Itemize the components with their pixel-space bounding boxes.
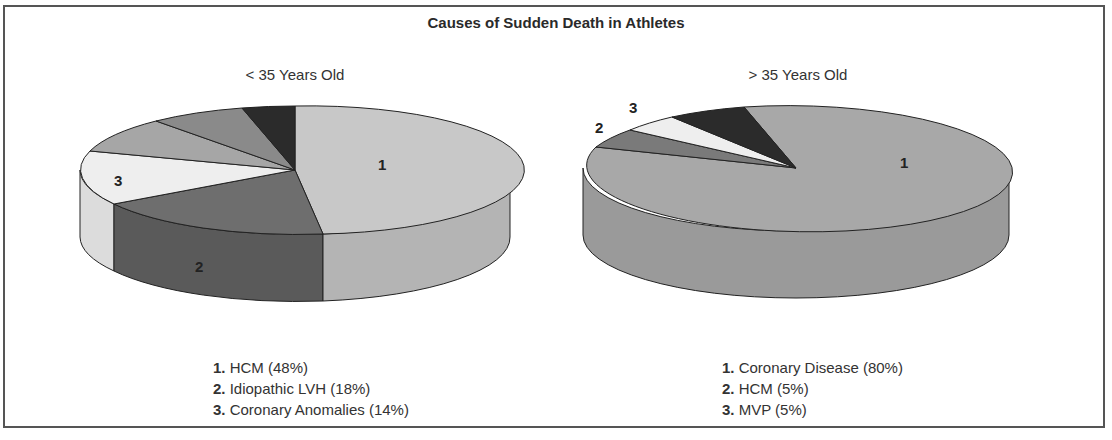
legend-item: 3. MVP (5%) [722, 399, 903, 420]
legend-item: 3. Coronary Anomalies (14%) [213, 399, 409, 420]
right-pie: 1 2 3 [583, 99, 1013, 298]
left-label-1: 1 [378, 156, 386, 173]
pie-charts: 1 2 3 1 2 3 [0, 0, 1112, 440]
left-pie: 1 2 3 [80, 106, 524, 302]
legend-item: 1. Coronary Disease (80%) [722, 357, 903, 378]
legend-item: 1. HCM (48%) [213, 357, 409, 378]
left-label-3: 3 [114, 172, 122, 189]
legend-item: 2. HCM (5%) [722, 378, 903, 399]
right-label-3: 3 [629, 99, 637, 116]
right-legend: 1. Coronary Disease (80%) 2. HCM (5%) 3.… [722, 357, 903, 420]
left-label-2: 2 [195, 258, 203, 275]
left-legend: 1. HCM (48%) 2. Idiopathic LVH (18%) 3. … [213, 357, 409, 420]
right-label-2: 2 [595, 119, 603, 136]
right-label-1: 1 [900, 154, 908, 171]
legend-item: 2. Idiopathic LVH (18%) [213, 378, 409, 399]
